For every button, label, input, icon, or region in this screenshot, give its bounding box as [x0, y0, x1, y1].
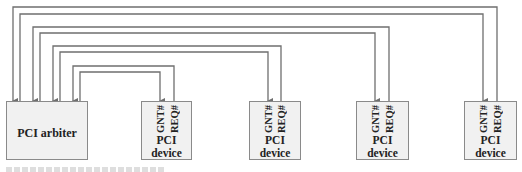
device-label-line1: PCI — [465, 134, 516, 147]
req-label: REQ# — [492, 105, 504, 133]
req-line-device-2 — [53, 46, 281, 101]
req-label: REQ# — [169, 105, 181, 133]
gnt-line-device-2 — [60, 52, 268, 101]
gnt-label: GNT# — [263, 105, 275, 133]
pci-arbiter-label: PCI arbiter — [7, 126, 87, 141]
device-label-line1: PCI — [142, 134, 191, 147]
gnt-label: GNT# — [370, 105, 382, 133]
pci-arbiter-box: PCI arbiter — [6, 101, 88, 160]
device-label-line2: device — [357, 147, 408, 160]
req-line-device-3 — [33, 27, 389, 101]
pci-device-1: GNT# REQ# PCI device — [141, 101, 192, 160]
figure-caption-cropped — [6, 167, 166, 172]
device-label-line1: PCI — [357, 134, 408, 147]
device-label-line2: device — [250, 147, 300, 160]
req-line-device-4 — [13, 7, 497, 101]
req-line-device-1 — [73, 66, 174, 101]
gnt-line-device-3 — [40, 33, 375, 101]
device-label-line1: PCI — [250, 134, 300, 147]
gnt-label: GNT# — [155, 105, 167, 133]
device-label-line2: device — [465, 147, 516, 160]
gnt-label: GNT# — [478, 105, 490, 133]
pci-device-2: GNT# REQ# PCI device — [249, 101, 301, 160]
req-label: REQ# — [384, 105, 396, 133]
pci-device-3: GNT# REQ# PCI device — [356, 101, 409, 160]
gnt-line-device-1 — [80, 72, 160, 101]
req-label: REQ# — [276, 105, 288, 133]
pci-device-4: GNT# REQ# PCI device — [464, 101, 517, 160]
device-label-line2: device — [142, 147, 191, 160]
